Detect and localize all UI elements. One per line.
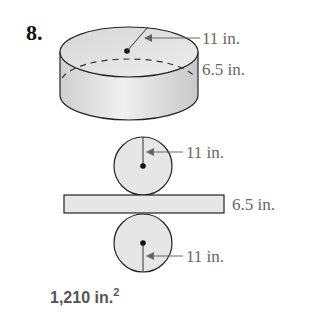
cylinder-diagram: 8. 11 in. 6.5 in. 11 in. 6.5 in. 11 in. xyxy=(0,0,316,323)
top-circle-radius-label: 11 in. xyxy=(186,143,224,162)
bottom-circle-radius-label: 11 in. xyxy=(186,247,224,266)
answer-exponent: 2 xyxy=(113,286,119,298)
rectangle-height-label: 6.5 in. xyxy=(232,195,275,214)
net-rectangle xyxy=(64,195,224,213)
answer: 1,210 in.2 xyxy=(50,286,119,307)
cylinder-radius-label: 11 in. xyxy=(202,29,240,48)
answer-value: 1,210 in. xyxy=(50,289,113,306)
cylinder-height-label: 6.5 in. xyxy=(202,60,245,79)
cylinder-3d xyxy=(60,27,200,120)
net-top-circle xyxy=(114,137,183,195)
net-bottom-circle xyxy=(114,214,183,272)
problem-number: 8. xyxy=(26,20,43,45)
